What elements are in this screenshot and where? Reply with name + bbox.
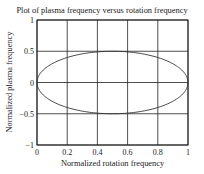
y-axis-label: Normalized plasma frequency <box>5 32 14 133</box>
x-tick-label: 0 <box>35 148 39 157</box>
x-tick-label: 0.2 <box>62 148 72 157</box>
x-tick-label: 0.6 <box>123 148 133 157</box>
x-tick-label: 0.4 <box>92 148 102 157</box>
x-tick-label: 0.8 <box>153 148 163 157</box>
y-tick-label: 0.5 <box>24 47 34 56</box>
y-tick-label: −0.5 <box>19 110 34 119</box>
x-tick-label: 1 <box>186 148 190 157</box>
y-tick-label: 1 <box>30 16 34 25</box>
y-tick-label: 0 <box>30 79 34 88</box>
y-tick-label: −1 <box>25 141 34 150</box>
x-axis-label: Normalized rotation frequency <box>37 159 188 168</box>
plot-area: 00.20.40.60.8110.50−0.5−1 <box>0 0 204 174</box>
